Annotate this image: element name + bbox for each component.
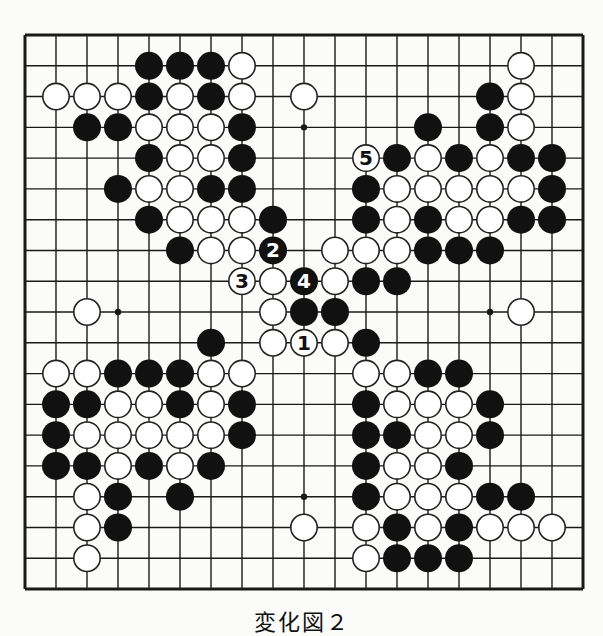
black-stone bbox=[538, 206, 566, 234]
diagram-caption: 変化図２ bbox=[0, 604, 603, 636]
black-stone bbox=[383, 144, 411, 172]
black-stone bbox=[197, 83, 225, 111]
black-stone bbox=[166, 360, 194, 388]
white-stone bbox=[229, 53, 255, 79]
move-number-label: 5 bbox=[359, 146, 373, 170]
black-stone bbox=[197, 452, 225, 480]
white-stone bbox=[539, 514, 565, 540]
white-stone bbox=[136, 114, 162, 140]
white-stone bbox=[353, 545, 379, 571]
white-stone bbox=[198, 391, 224, 417]
black-stone bbox=[352, 175, 380, 203]
white-stone bbox=[446, 422, 472, 448]
white-stone bbox=[260, 330, 286, 356]
white-stone bbox=[43, 360, 69, 386]
black-stone bbox=[73, 113, 101, 141]
black-stone bbox=[352, 390, 380, 418]
black-stone bbox=[166, 52, 194, 80]
black-stone bbox=[414, 360, 442, 388]
white-stone bbox=[353, 360, 379, 386]
white-stone bbox=[477, 145, 503, 171]
black-stone bbox=[538, 175, 566, 203]
black-stone bbox=[445, 144, 473, 172]
white-stone bbox=[229, 237, 255, 263]
white-stone bbox=[446, 176, 472, 202]
white-stone bbox=[322, 330, 348, 356]
black-stone bbox=[135, 83, 163, 111]
black-stone bbox=[42, 452, 70, 480]
black-stone bbox=[352, 206, 380, 234]
white-stone bbox=[105, 83, 131, 109]
white-stone bbox=[167, 83, 193, 109]
white-stone bbox=[415, 145, 441, 171]
white-stone bbox=[415, 484, 441, 510]
black-stone bbox=[166, 390, 194, 418]
white-stone bbox=[198, 114, 224, 140]
black-stone bbox=[228, 113, 256, 141]
white-stone bbox=[74, 545, 100, 571]
black-stone bbox=[445, 544, 473, 572]
white-stone bbox=[260, 299, 286, 325]
black-stone bbox=[507, 483, 535, 511]
white-stone bbox=[384, 237, 410, 263]
black-stone bbox=[445, 452, 473, 480]
star-point bbox=[487, 309, 493, 315]
white-stone bbox=[167, 422, 193, 448]
white-stone bbox=[136, 422, 162, 448]
black-stone bbox=[352, 483, 380, 511]
star-point bbox=[301, 494, 307, 500]
black-stone bbox=[135, 52, 163, 80]
white-stone bbox=[229, 360, 255, 386]
white-stone bbox=[446, 391, 472, 417]
black-stone bbox=[197, 52, 225, 80]
black-stone bbox=[383, 421, 411, 449]
white-stone bbox=[167, 176, 193, 202]
white-stone bbox=[446, 484, 472, 510]
move-number-label: 2 bbox=[266, 238, 280, 262]
move-number-label: 1 bbox=[297, 331, 311, 355]
white-stone bbox=[229, 83, 255, 109]
black-stone bbox=[352, 329, 380, 357]
black-stone bbox=[414, 206, 442, 234]
black-stone bbox=[414, 544, 442, 572]
white-stone bbox=[198, 422, 224, 448]
white-stone bbox=[384, 360, 410, 386]
white-stone bbox=[415, 514, 441, 540]
black-stone bbox=[290, 298, 318, 326]
black-stone bbox=[135, 144, 163, 172]
white-stone bbox=[229, 206, 255, 232]
black-stone bbox=[445, 360, 473, 388]
black-stone bbox=[507, 144, 535, 172]
white-stone bbox=[353, 514, 379, 540]
black-stone bbox=[476, 390, 504, 418]
white-stone bbox=[291, 83, 317, 109]
white-stone bbox=[508, 176, 534, 202]
white-stone bbox=[508, 514, 534, 540]
black-stone bbox=[445, 513, 473, 541]
white-stone bbox=[322, 237, 348, 263]
black-stone bbox=[352, 452, 380, 480]
white-stone bbox=[508, 53, 534, 79]
black-stone bbox=[352, 267, 380, 295]
white-stone bbox=[415, 422, 441, 448]
white-stone bbox=[384, 391, 410, 417]
white-stone bbox=[477, 514, 503, 540]
black-stone bbox=[104, 360, 132, 388]
black-stone bbox=[73, 390, 101, 418]
black-stone bbox=[445, 236, 473, 264]
white-stone bbox=[198, 360, 224, 386]
black-stone bbox=[135, 206, 163, 234]
black-stone bbox=[476, 113, 504, 141]
white-stone bbox=[167, 114, 193, 140]
move-number-label: 4 bbox=[297, 269, 311, 293]
black-stone bbox=[538, 144, 566, 172]
black-stone bbox=[476, 83, 504, 111]
black-stone bbox=[228, 175, 256, 203]
white-stone bbox=[508, 299, 534, 325]
black-stone bbox=[135, 452, 163, 480]
white-stone bbox=[198, 145, 224, 171]
white-stone bbox=[291, 514, 317, 540]
black-stone bbox=[259, 206, 287, 234]
white-stone bbox=[477, 206, 503, 232]
white-stone bbox=[415, 176, 441, 202]
